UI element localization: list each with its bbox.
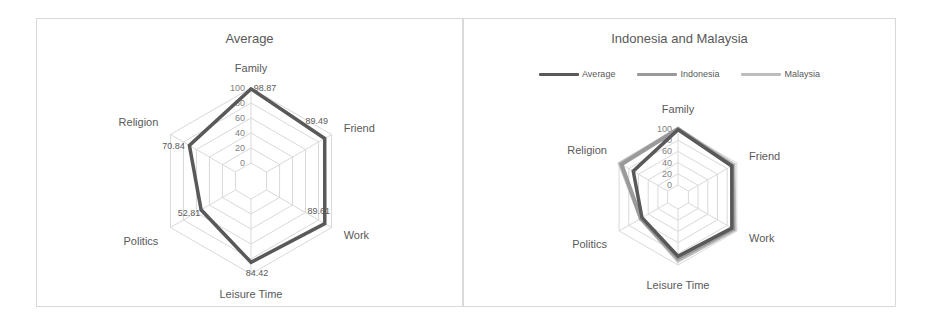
axis-label-politics: Politics: [572, 238, 607, 250]
data-label: 98.87: [254, 83, 277, 93]
tick-label: 60: [662, 146, 672, 156]
chart-panel-indonesia-malaysia: Indonesia and Malaysia Average Indonesia…: [463, 18, 896, 307]
tick-label: 100: [230, 83, 245, 93]
axis-label-work: Work: [749, 232, 775, 244]
axis-spoke: [170, 135, 235, 173]
axis-label-friend: Friend: [344, 122, 375, 134]
axis-label-family: Family: [235, 62, 268, 74]
axis-label-religion: Religion: [119, 116, 159, 128]
axis-label-work: Work: [344, 229, 370, 241]
tick-label: 20: [662, 169, 672, 179]
tick-label: 60: [235, 113, 245, 123]
axis-spoke: [688, 203, 736, 231]
tick-label: 0: [667, 180, 672, 190]
data-label: 52.81: [178, 208, 201, 218]
axis-spoke: [267, 135, 332, 173]
radar-chart-average: 02040608010098.8789.4989.6184.4252.8170.…: [37, 19, 464, 308]
axis-label-religion: Religion: [567, 144, 607, 156]
data-label: 89.61: [308, 206, 331, 216]
tick-label: 20: [235, 143, 245, 153]
tick-label: 0: [240, 158, 245, 168]
axis-label-family: Family: [662, 103, 695, 115]
tick-label: 40: [235, 128, 245, 138]
tick-label: 40: [662, 158, 672, 168]
grid-ring: [235, 163, 266, 199]
axis-spoke: [688, 163, 736, 191]
axis-label-politics: Politics: [123, 235, 158, 247]
data-label: 84.42: [246, 268, 269, 278]
axis-label-friend: Friend: [749, 150, 780, 162]
axis-label-leisure-time: Leisure Time: [647, 279, 710, 291]
chart-panel-average: Average 02040608010098.8789.4989.6184.42…: [36, 18, 463, 307]
axis-label-leisure-time: Leisure Time: [220, 288, 283, 300]
data-label: 70.84: [162, 141, 185, 151]
radar-chart-indonesia-malaysia: 020406080100FamilyFriendWorkLeisure Time…: [464, 19, 897, 308]
data-label: 89.49: [305, 116, 328, 126]
